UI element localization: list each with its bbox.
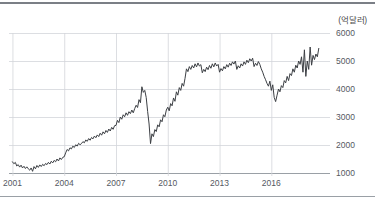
y-tick-label: 3000 (336, 112, 355, 122)
y-tick-label: 4000 (336, 84, 355, 94)
y-tick-label: 5000 (336, 56, 355, 66)
x-tick-label: 2007 (107, 178, 126, 188)
data-series-line (12, 47, 318, 171)
y-tick-label: 1000 (336, 168, 355, 178)
data-series-group (12, 47, 318, 171)
y-tick-label: 6000 (336, 28, 355, 38)
chart-figure: (억달러) 100020003000400050006000 200120042… (0, 0, 375, 204)
x-tick-label: 2004 (55, 178, 74, 188)
x-tick-label: 2013 (210, 178, 229, 188)
x-tick-labels-group: 200120042007201020132016 (3, 178, 281, 188)
y-tick-labels-group: 100020003000400050006000 (336, 28, 355, 178)
gridlines-group (9, 33, 330, 176)
line-chart-plot: 100020003000400050006000 200120042007201… (0, 0, 375, 204)
x-tick-label: 2001 (3, 178, 22, 188)
x-tick-label: 2010 (158, 178, 177, 188)
y-tick-label: 2000 (336, 140, 355, 150)
x-tick-label: 2016 (262, 178, 281, 188)
